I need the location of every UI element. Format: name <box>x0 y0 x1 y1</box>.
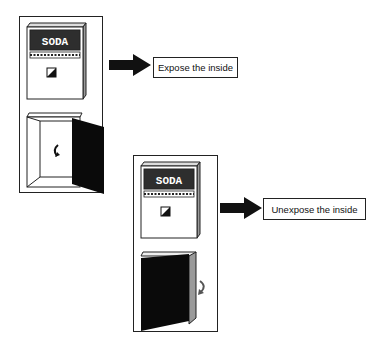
right-arrow-icon <box>220 197 262 219</box>
unexpose-inside-label: Unexpose the inside <box>263 198 366 220</box>
soda-sign: SODA <box>156 175 183 187</box>
soda-sign: SODA <box>42 36 69 48</box>
closed-door <box>141 254 189 331</box>
panel-expose-frame: SODA <box>19 16 103 193</box>
rotate-clockwise-icon <box>198 281 204 295</box>
expose-inside-label: Expose the inside <box>153 57 238 78</box>
open-door <box>72 118 104 194</box>
panel-unexpose-frame: SODA <box>133 155 218 332</box>
right-arrow-icon <box>109 54 151 76</box>
soda-machine-open-illustration: SODA <box>20 17 104 194</box>
soda-machine-closed-illustration: SODA <box>134 156 219 333</box>
